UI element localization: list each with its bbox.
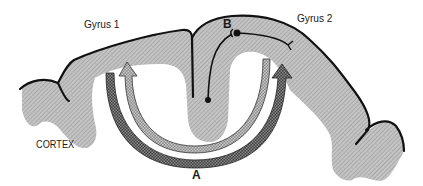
label-cortex: CORTEX <box>36 140 74 150</box>
cortex-diagram: Gyrus 1 Gyrus 2 B A CORTEX <box>0 0 423 186</box>
cortex-tissue <box>20 16 404 181</box>
label-gyrus-1: Gyrus 1 <box>84 19 119 30</box>
label-point-b: B <box>223 17 232 30</box>
label-point-a: A <box>192 168 201 181</box>
label-gyrus-2: Gyrus 2 <box>297 13 332 24</box>
